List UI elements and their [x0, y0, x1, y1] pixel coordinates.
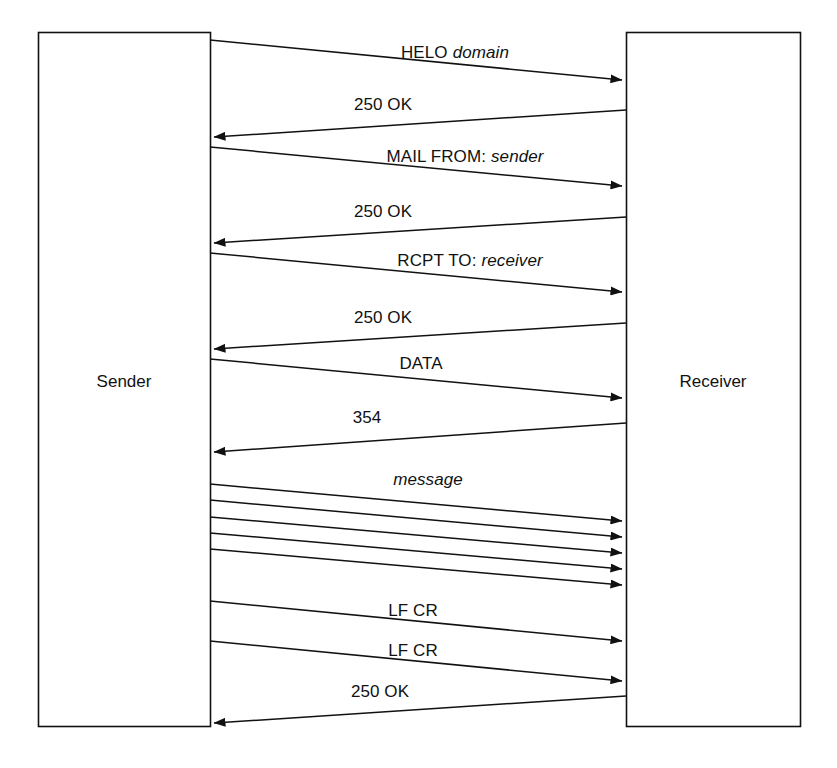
message-label-6: 250 OK	[354, 308, 412, 328]
sequence-diagram: SenderReceiver HELOdomain250 OKMAIL FROM…	[0, 0, 837, 768]
message-label-12: 250 OK	[351, 682, 409, 702]
message-arrow-9-2	[210, 500, 622, 537]
message-label-text-8: 354	[353, 408, 382, 427]
message-arrow-9-5	[210, 549, 622, 585]
message-arrow-9-4	[210, 533, 622, 569]
message-label-param-1: domain	[453, 43, 509, 62]
message-label-10: LF CR	[388, 601, 438, 621]
message-label-8: 354	[353, 408, 382, 428]
message-arrow-9-3	[210, 517, 622, 553]
message-label-param-9: message	[393, 470, 463, 489]
message-label-text-2: 250 OK	[354, 95, 412, 114]
message-label-param-5: receiver	[481, 251, 542, 270]
message-label-2: 250 OK	[354, 95, 412, 115]
message-label-text-11: LF CR	[388, 641, 438, 660]
message-label-text-1: HELO	[401, 43, 448, 62]
message-label-5: RCPT TO:receiver	[397, 251, 542, 271]
message-label-1: HELOdomain	[401, 43, 509, 63]
message-label-9: message	[393, 470, 463, 490]
message-arrow-12	[214, 696, 626, 723]
message-label-text-3: MAIL FROM:	[386, 147, 486, 166]
actor-label-sender: Sender	[97, 372, 152, 392]
message-arrow-6	[214, 323, 626, 349]
message-label-7: DATA	[399, 354, 442, 374]
message-label-text-7: DATA	[399, 354, 442, 373]
message-label-3: MAIL FROM:sender	[386, 147, 543, 167]
message-label-text-5: RCPT TO:	[397, 251, 476, 270]
message-label-text-6: 250 OK	[354, 308, 412, 327]
message-label-param-3: sender	[491, 147, 544, 166]
message-label-11: LF CR	[388, 641, 438, 661]
message-label-4: 250 OK	[354, 202, 412, 222]
message-arrow-2	[214, 110, 626, 137]
actor-label-receiver: Receiver	[679, 372, 746, 392]
message-arrow-8	[214, 423, 626, 452]
message-label-text-10: LF CR	[388, 601, 438, 620]
message-label-text-12: 250 OK	[351, 682, 409, 701]
message-arrow-4	[214, 217, 626, 243]
message-label-text-4: 250 OK	[354, 202, 412, 221]
